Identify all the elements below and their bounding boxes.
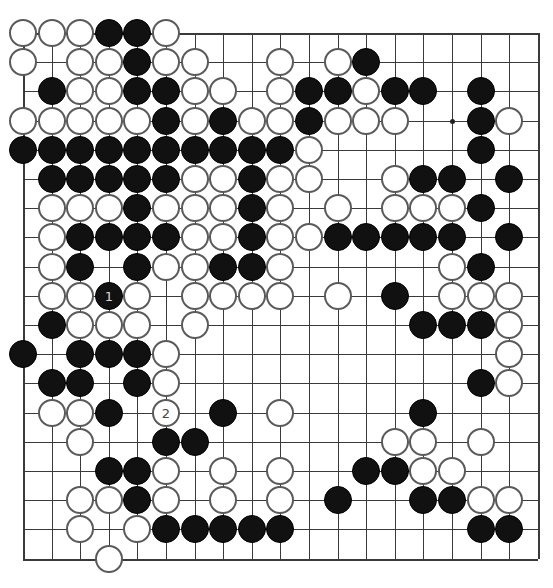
black-stone xyxy=(123,253,151,281)
white-stone xyxy=(181,48,209,76)
white-stone xyxy=(438,282,466,310)
white-stone xyxy=(295,223,323,251)
black-stone xyxy=(209,253,237,281)
white-stone xyxy=(266,223,294,251)
white-stone xyxy=(95,545,123,573)
white-stone xyxy=(381,107,409,135)
black-stone xyxy=(238,253,266,281)
white-stone xyxy=(66,282,94,310)
white-stone xyxy=(95,486,123,514)
white-stone xyxy=(438,253,466,281)
black-stone xyxy=(66,223,94,251)
black-stone xyxy=(123,340,151,368)
white-stone xyxy=(66,311,94,339)
black-stone xyxy=(123,194,151,222)
white-stone xyxy=(438,194,466,222)
black-stone xyxy=(324,77,352,105)
white-stone xyxy=(38,194,66,222)
black-stone xyxy=(381,77,409,105)
black-stone xyxy=(66,165,94,193)
white-stone xyxy=(152,19,180,47)
white-stone xyxy=(238,282,266,310)
black-stone xyxy=(123,77,151,105)
black-stone xyxy=(266,515,294,543)
white-stone xyxy=(409,428,437,456)
white-stone xyxy=(324,282,352,310)
black-stone xyxy=(95,340,123,368)
black-stone xyxy=(352,223,380,251)
white-stone xyxy=(266,48,294,76)
black-stone xyxy=(95,457,123,485)
white-stone xyxy=(266,253,294,281)
black-stone xyxy=(438,311,466,339)
white-stone xyxy=(495,369,523,397)
white-stone xyxy=(181,223,209,251)
grid-row-line xyxy=(23,383,538,384)
black-stone xyxy=(467,136,495,164)
white-stone xyxy=(123,311,151,339)
white-stone xyxy=(209,282,237,310)
black-stone xyxy=(381,457,409,485)
white-stone xyxy=(38,399,66,427)
white-stone xyxy=(495,340,523,368)
black-stone xyxy=(152,77,180,105)
black-stone xyxy=(409,399,437,427)
white-stone xyxy=(495,486,523,514)
white-stone xyxy=(266,165,294,193)
white-stone xyxy=(266,457,294,485)
black-stone xyxy=(266,136,294,164)
move-number-label: 2 xyxy=(162,406,170,421)
white-stone xyxy=(266,77,294,105)
white-stone xyxy=(152,486,180,514)
black-stone xyxy=(209,136,237,164)
white-stone xyxy=(66,107,94,135)
black-stone xyxy=(467,253,495,281)
white-stone xyxy=(266,107,294,135)
white-stone xyxy=(66,515,94,543)
white-stone xyxy=(181,282,209,310)
black-stone xyxy=(123,48,151,76)
white-stone xyxy=(9,107,37,135)
black-stone xyxy=(152,136,180,164)
black-stone xyxy=(9,340,37,368)
black-stone xyxy=(66,369,94,397)
white-stone xyxy=(152,369,180,397)
white-stone xyxy=(38,19,66,47)
white-stone xyxy=(295,165,323,193)
black-stone xyxy=(123,165,151,193)
black-stone xyxy=(123,486,151,514)
black-stone xyxy=(238,223,266,251)
move-number-label: 1 xyxy=(105,289,113,304)
black-stone xyxy=(38,165,66,193)
white-stone xyxy=(95,77,123,105)
black-stone xyxy=(66,340,94,368)
white-stone xyxy=(409,457,437,485)
white-stone xyxy=(181,165,209,193)
black-stone xyxy=(238,194,266,222)
white-stone xyxy=(295,136,323,164)
black-stone xyxy=(152,223,180,251)
white-stone xyxy=(467,282,495,310)
white-stone xyxy=(123,282,151,310)
white-stone xyxy=(209,194,237,222)
black-stone xyxy=(438,165,466,193)
white-stone xyxy=(66,77,94,105)
black-stone xyxy=(9,136,37,164)
white-stone xyxy=(209,223,237,251)
white-stone xyxy=(495,107,523,135)
white-stone xyxy=(266,194,294,222)
black-stone xyxy=(209,107,237,135)
white-stone xyxy=(266,282,294,310)
black-stone xyxy=(95,399,123,427)
black-stone xyxy=(152,428,180,456)
black-stone xyxy=(438,486,466,514)
black-stone xyxy=(123,19,151,47)
black-stone xyxy=(324,486,352,514)
black-stone xyxy=(238,165,266,193)
white-stone xyxy=(9,48,37,76)
black-stone xyxy=(438,223,466,251)
black-stone xyxy=(409,77,437,105)
star-point xyxy=(450,119,455,124)
white-stone xyxy=(352,107,380,135)
white-stone xyxy=(66,19,94,47)
